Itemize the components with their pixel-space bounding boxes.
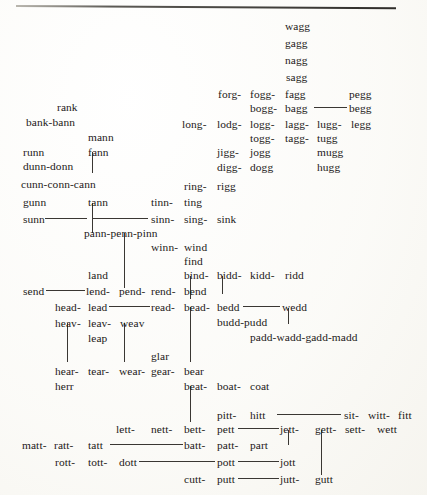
word-node: long- bbox=[182, 118, 207, 130]
word-node: wett bbox=[377, 423, 397, 435]
word-node: fann bbox=[88, 146, 109, 158]
word-node: gear- bbox=[151, 365, 175, 377]
word-node: hitt bbox=[250, 409, 266, 421]
word-node: batt- bbox=[184, 439, 205, 451]
connector-horizontal bbox=[139, 461, 215, 462]
word-node: heav- bbox=[55, 317, 81, 329]
word-node: begg bbox=[349, 102, 372, 114]
word-node: gett- bbox=[315, 423, 336, 435]
word-node: sinn- bbox=[151, 213, 174, 225]
word-node: mugg bbox=[317, 146, 343, 158]
word-node: rott- bbox=[55, 456, 75, 468]
connector-vertical bbox=[190, 307, 191, 362]
word-node: nett- bbox=[151, 423, 172, 435]
word-node: putt bbox=[217, 473, 235, 485]
word-node: sink bbox=[217, 213, 236, 225]
word-node: kidd- bbox=[250, 269, 275, 281]
word-node: forg- bbox=[218, 88, 241, 100]
connector-horizontal bbox=[92, 218, 148, 219]
word-node: lett- bbox=[116, 423, 135, 435]
word-node: mann bbox=[88, 131, 114, 143]
word-node: patt- bbox=[217, 439, 238, 451]
word-node: bidd- bbox=[217, 269, 242, 281]
word-node: part bbox=[250, 439, 268, 451]
paper-texture bbox=[0, 0, 427, 495]
word-node: bogg- bbox=[250, 102, 277, 114]
word-node: jett- bbox=[280, 423, 299, 435]
word-node: budd-pudd bbox=[217, 316, 267, 328]
word-node: digg- bbox=[217, 161, 242, 173]
word-node: bank-bann bbox=[26, 116, 75, 128]
word-node: gunn bbox=[23, 196, 46, 208]
word-node: land bbox=[88, 269, 108, 281]
word-node: ring- bbox=[184, 180, 207, 192]
word-node: dogg bbox=[250, 161, 273, 173]
word-node: bind- bbox=[184, 269, 209, 281]
word-node: legg bbox=[351, 118, 371, 130]
word-node: lagg- bbox=[285, 118, 309, 130]
word-node: hugg bbox=[317, 161, 340, 173]
word-node: witt- bbox=[368, 409, 390, 421]
word-node: sett- bbox=[345, 423, 365, 435]
word-node: dott bbox=[119, 456, 137, 468]
word-node: head- bbox=[55, 301, 81, 313]
word-node: logg- bbox=[250, 118, 275, 130]
word-node: glar bbox=[151, 350, 169, 362]
scanned-page: wagggaggnaggsaggforg-fogg-faggpeggrankbo… bbox=[0, 0, 427, 495]
word-node: beat- bbox=[184, 380, 207, 392]
word-node: lead bbox=[88, 301, 107, 313]
word-node: ratt- bbox=[54, 439, 73, 451]
word-node: pett bbox=[217, 423, 234, 435]
connector-horizontal bbox=[238, 461, 279, 462]
word-node: find bbox=[184, 255, 203, 267]
word-node: read- bbox=[151, 301, 175, 313]
word-node: gagg bbox=[285, 37, 308, 49]
word-node: weav bbox=[120, 317, 144, 329]
word-node: sagg bbox=[286, 71, 307, 83]
header-rule bbox=[16, 5, 396, 9]
word-node: cunn-conn-cann bbox=[21, 178, 96, 190]
word-node: send bbox=[23, 285, 44, 297]
connector-vertical bbox=[124, 233, 125, 288]
word-node: tagg- bbox=[285, 132, 309, 144]
word-node: togg- bbox=[250, 132, 275, 144]
word-node: lugg- bbox=[317, 118, 342, 130]
word-node: bagg bbox=[285, 102, 308, 114]
word-node: wagg bbox=[285, 20, 310, 32]
word-node: fitt bbox=[398, 409, 412, 421]
connector-horizontal bbox=[110, 444, 183, 445]
word-node: tinn- bbox=[151, 196, 173, 208]
word-node: pegg bbox=[349, 88, 372, 100]
word-node: wear- bbox=[119, 365, 145, 377]
word-node: hear- bbox=[55, 365, 79, 377]
connector-horizontal bbox=[238, 428, 279, 429]
word-node: tear- bbox=[88, 365, 109, 377]
word-node: lend- bbox=[86, 285, 110, 297]
word-node: leav- bbox=[88, 317, 111, 329]
word-node: pott bbox=[217, 456, 235, 468]
word-node: tott- bbox=[88, 456, 107, 468]
word-node: fogg- bbox=[250, 88, 275, 100]
word-node: bead- bbox=[184, 301, 210, 313]
connector-horizontal bbox=[277, 414, 341, 415]
word-node: jott bbox=[280, 456, 296, 468]
word-node: sit- bbox=[344, 409, 359, 421]
word-node: jutt- bbox=[280, 473, 299, 485]
word-node: matt- bbox=[22, 439, 47, 451]
connector-horizontal bbox=[45, 218, 87, 219]
word-node: sunn bbox=[23, 213, 45, 225]
word-node: sing- bbox=[184, 213, 207, 225]
word-node: herr bbox=[55, 380, 74, 392]
word-node: pitt- bbox=[217, 409, 236, 421]
word-node: coat bbox=[250, 380, 269, 392]
word-node: nagg bbox=[285, 54, 308, 66]
word-node: jigg- bbox=[217, 146, 239, 158]
word-node: rigg bbox=[217, 180, 236, 192]
word-node: bend bbox=[184, 285, 207, 297]
connector-horizontal bbox=[46, 290, 85, 291]
connector-horizontal bbox=[109, 306, 150, 307]
word-node: boat- bbox=[217, 380, 241, 392]
word-node: bedd bbox=[217, 301, 240, 313]
word-node: ridd bbox=[285, 269, 304, 281]
word-node: wind bbox=[184, 241, 207, 253]
